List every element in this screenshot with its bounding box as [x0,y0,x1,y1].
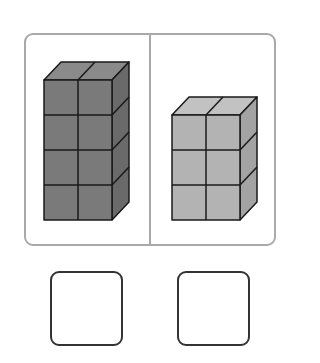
answer-box-right[interactable] [177,271,250,346]
left-cube-stack [44,62,129,220]
right-cube-stack [172,97,257,220]
answer-box-left[interactable] [50,271,123,346]
right-stack-side [240,97,257,220]
